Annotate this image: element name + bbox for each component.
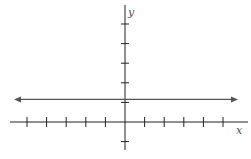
coordinate-plane: xy — [0, 0, 251, 159]
left-arrow-icon — [14, 96, 21, 102]
right-arrow-icon — [231, 96, 238, 102]
y-axis-label: y — [127, 6, 135, 19]
x-axis-label: x — [236, 124, 243, 137]
